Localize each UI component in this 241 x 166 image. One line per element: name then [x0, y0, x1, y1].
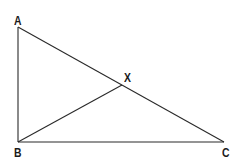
triangle-diagram [0, 0, 241, 166]
vertex-label-a: A [14, 14, 22, 27]
vertex-label-x: X [124, 71, 131, 84]
vertex-label-b: B [14, 146, 22, 159]
vertex-label-c: C [222, 146, 230, 159]
segment-bx [18, 85, 122, 142]
